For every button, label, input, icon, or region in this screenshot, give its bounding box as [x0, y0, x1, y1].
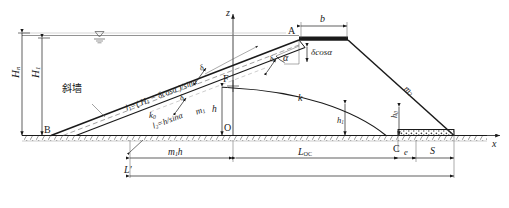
- inclined-wall-leader: [92, 104, 105, 117]
- label-length-total: L′: [124, 165, 132, 175]
- dim-m1h: [130, 140, 233, 178]
- label-base-m1h: m1h: [168, 148, 183, 158]
- label-crest-width: b: [320, 14, 325, 24]
- label-alpha-angle: α: [283, 53, 288, 63]
- phreatic-line: [222, 87, 386, 135]
- dam-body-outline: [51, 40, 454, 136]
- label-z-axis: z: [226, 8, 230, 18]
- label-drain-S: S: [430, 146, 435, 156]
- label-point-C: C: [393, 144, 400, 154]
- foundation-ground: [22, 136, 487, 142]
- label-point-A: A: [288, 26, 295, 36]
- label-delta-cos-alpha: δcosα: [311, 48, 332, 57]
- label-depth-h1: h1: [337, 116, 344, 125]
- label-tail-depth-h0: h0: [390, 111, 399, 118]
- label-permeability-body: k: [298, 93, 302, 103]
- label-point-B: B: [44, 125, 51, 135]
- label-length-Loc: LOC: [298, 147, 312, 157]
- label-H-total: Hn: [10, 67, 22, 78]
- toe-drain: [398, 130, 454, 136]
- figure-canvas: Hn H1 斜墙 B A C F O z x b δcosα α: [0, 0, 509, 208]
- label-depth-h: h: [212, 105, 217, 115]
- crest-band: [299, 37, 348, 41]
- label-toe-offset-e: e: [404, 148, 408, 157]
- dim-H1: [38, 38, 50, 136]
- label-origin-O: O: [224, 123, 231, 133]
- label-point-F: F: [223, 74, 229, 84]
- reservoir-water-surface: [22, 32, 299, 43]
- dim-crest-b: [301, 22, 347, 38]
- label-x-axis: x: [492, 139, 496, 149]
- label-H1: H1: [30, 67, 42, 78]
- label-permeability-core: k0: [149, 111, 156, 121]
- label-inclined-wall: 斜墙: [62, 84, 82, 94]
- diagram-svg: [0, 0, 509, 208]
- dim-H-total: [18, 33, 30, 136]
